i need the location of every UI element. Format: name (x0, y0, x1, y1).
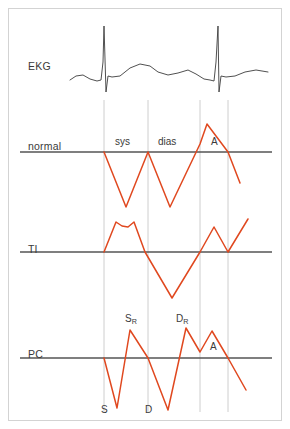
annotation-normal-dias: dias (158, 136, 176, 147)
annotation-pc-sr-subscript: R (132, 317, 137, 326)
annotation-normal-sys: sys (115, 136, 130, 147)
row-label-pc: PC (28, 348, 43, 360)
row-label-ti: TI (28, 243, 38, 255)
annotation-pc-dr-subscript: R (183, 317, 188, 326)
annotation-axis-d: D (145, 404, 152, 415)
annotation-pc-sr: SR (125, 313, 137, 326)
annotation-normal-a: A (211, 136, 218, 147)
row-label-normal: normal (28, 140, 61, 152)
annotation-pc-dr: DR (176, 313, 188, 326)
waveform-figure: EKG normal TI PC sysdiasASRDRASD (0, 0, 290, 429)
annotation-pc-a: A (210, 341, 217, 352)
row-label-ekg: EKG (28, 60, 51, 72)
annotation-axis-s: S (101, 404, 108, 415)
